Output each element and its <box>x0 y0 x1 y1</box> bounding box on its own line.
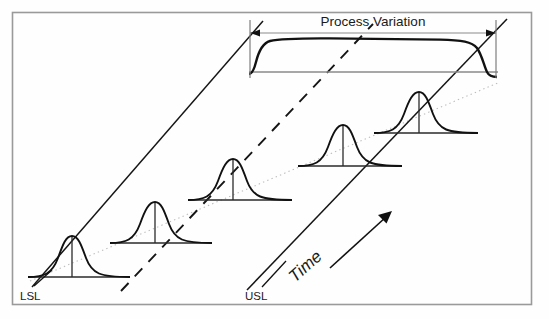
process-variation-diagram: Process Variation Time LSL USL <box>0 0 549 319</box>
usl-label: USL <box>245 290 268 302</box>
figure-canvas: Process Variation Time LSL USL <box>0 0 549 319</box>
lsl-label: LSL <box>20 290 41 302</box>
process-variation-label: Process Variation <box>321 14 426 29</box>
diagram-background <box>0 0 549 319</box>
